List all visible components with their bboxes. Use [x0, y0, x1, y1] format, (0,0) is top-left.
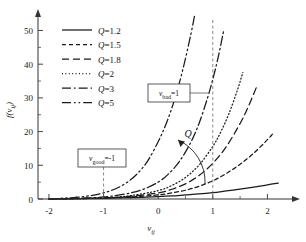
x-tick-label: -1 [100, 206, 108, 216]
x-axis-title-sub: ij [151, 228, 155, 235]
y-tick-label: 10 [24, 161, 34, 171]
y-tick-label: 0 [29, 195, 34, 205]
legend-label-4: Q=3 [98, 84, 115, 94]
legend-label-value-4: =3 [105, 84, 115, 94]
y-tick-label: 50 [24, 26, 34, 36]
x-tick-label: -2 [45, 206, 53, 216]
legend-label-1: Q=1.5 [98, 40, 121, 50]
y-axis-title-close: ) [4, 102, 14, 106]
v-good-text-val: -1 [109, 154, 115, 163]
legend-label-value-1: =1.5 [105, 40, 122, 50]
legend-label-3: Q=2 [98, 69, 114, 79]
x-tick-label: 1 [211, 206, 216, 216]
legend-label-value-5: =5 [105, 98, 115, 108]
x-tick-label: 0 [156, 206, 161, 216]
y-tick-label: 20 [24, 127, 34, 137]
legend-label-0: Q=1.2 [98, 26, 121, 36]
legend-label-value-2: =1.8 [105, 55, 122, 65]
y-tick-label: 30 [24, 93, 34, 103]
chart-svg: -2-1012 01020304050 vij f(vij) Q=1.2Q=1.… [0, 0, 306, 242]
v-bad-text-sub: bad [162, 94, 171, 100]
q-arrow-label: Q [184, 128, 192, 139]
y-tick-label: 40 [24, 60, 34, 70]
legend-label-5: Q=5 [98, 98, 115, 108]
legend-label-value-0: =1.2 [105, 26, 121, 36]
figure-container: -2-1012 01020304050 vij f(vij) Q=1.2Q=1.… [0, 0, 306, 242]
legend-label-2: Q=1.8 [98, 55, 121, 65]
v-bad-text-val: 1 [175, 89, 179, 98]
v-good-text-sub: good [92, 159, 104, 165]
legend-label-value-3: =2 [105, 69, 115, 79]
x-tick-label: 2 [265, 206, 270, 216]
